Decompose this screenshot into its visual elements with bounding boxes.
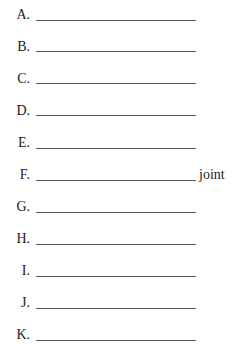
- answer-blank-a[interactable]: [36, 20, 196, 21]
- answer-blank-i[interactable]: [36, 276, 196, 277]
- answer-blank-f[interactable]: [36, 180, 196, 181]
- row-label: D.: [0, 104, 30, 118]
- answer-row-a: A.: [0, 8, 241, 28]
- answer-row-b: B.: [0, 40, 241, 60]
- answer-blank-j[interactable]: [36, 308, 196, 309]
- row-label: J.: [0, 296, 30, 310]
- answer-blank-h[interactable]: [36, 244, 196, 245]
- row-label: G.: [0, 200, 30, 214]
- answer-blank-c[interactable]: [36, 83, 196, 84]
- answer-blank-g[interactable]: [36, 212, 196, 213]
- answer-row-c: C.: [0, 72, 241, 92]
- row-label: E.: [0, 136, 30, 150]
- answer-row-j: J.: [0, 296, 241, 316]
- row-label: H.: [0, 232, 30, 246]
- answer-row-d: D.: [0, 104, 241, 124]
- answer-blank-e[interactable]: [36, 148, 196, 149]
- row-label: I.: [0, 264, 30, 278]
- row-label: C.: [0, 72, 30, 86]
- row-label: A.: [0, 8, 30, 22]
- answer-row-g: G.: [0, 200, 241, 220]
- answer-row-e: E.: [0, 136, 241, 156]
- answer-row-f: F. joint: [0, 168, 241, 188]
- row-label: K.: [0, 328, 30, 342]
- answer-blank-k[interactable]: [36, 340, 196, 341]
- row-label: F.: [0, 168, 30, 182]
- answer-blank-d[interactable]: [36, 115, 196, 116]
- answer-row-k: K.: [0, 328, 241, 348]
- row-suffix: joint: [199, 168, 225, 182]
- answer-blank-b[interactable]: [36, 51, 196, 52]
- answer-row-i: I.: [0, 264, 241, 284]
- answer-row-h: H.: [0, 232, 241, 252]
- row-label: B.: [0, 40, 30, 54]
